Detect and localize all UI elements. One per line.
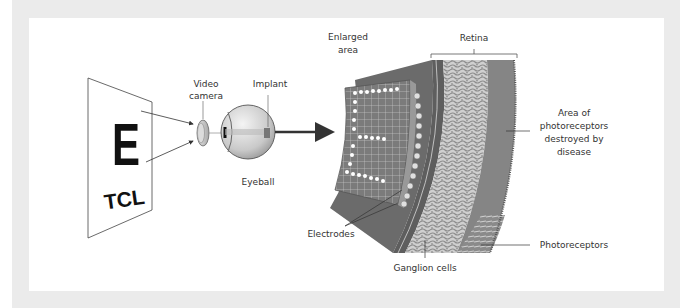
label-eyeball: Eyeball [242,177,275,187]
label-area-destroyed-4: disease [557,147,592,157]
implant-chip [264,128,270,138]
video-camera-icon [197,120,209,146]
label-area-destroyed-1: Area of [558,108,591,118]
retinal-implant-diagram: E TCL Video camera Implant Eyeball [0,0,693,308]
label-enlarged-area-2: area [338,45,358,55]
label-area-destroyed-2: photoreceptors [540,121,609,131]
label-video-camera-1: Video [193,79,219,89]
label-area-destroyed-3: destroyed by [545,134,605,144]
electrode-array [335,80,422,208]
label-retina: Retina [460,33,489,43]
eye-chart-letter-e: E [112,111,140,178]
label-photoreceptors: Photoreceptors [540,240,609,250]
label-electrodes: Electrodes [307,229,354,239]
label-video-camera-2: camera [189,91,223,101]
sight-line-lower [146,141,193,162]
retina-bracket [431,49,517,58]
eyeball-icon [221,105,275,159]
eye-chart-card: E TCL [88,78,152,238]
label-enlarged-area-1: Enlarged [328,32,368,42]
label-ganglion-cells: Ganglion cells [393,263,456,273]
label-implant: Implant [253,79,288,89]
